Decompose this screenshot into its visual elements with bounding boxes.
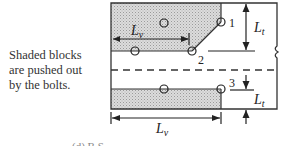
bottom-lt-arrowhead-up [243,110,250,118]
bolt-label-2: 2 [198,53,204,67]
top-lt-arrowhead-down [243,42,250,50]
top-lt-label: Lt [253,20,265,37]
block-shear-diagram: 1 2 3 Lv Lt Lt Lv [0,0,286,146]
bottom-lt-label: Lt [253,92,265,109]
bottom-lv-arrowhead-left [112,115,120,121]
bottom-lv-arrowhead-right [212,115,220,121]
bolt-label-3: 3 [229,76,235,90]
top-lt-arrowhead-up [243,4,250,12]
bottom-lt-arrowhead-down [243,81,250,89]
figure-caption-partial: (d) B.S. ... [72,139,118,146]
bottom-lv-label: Lv [155,121,169,138]
bolt-label-1: 1 [229,16,235,30]
